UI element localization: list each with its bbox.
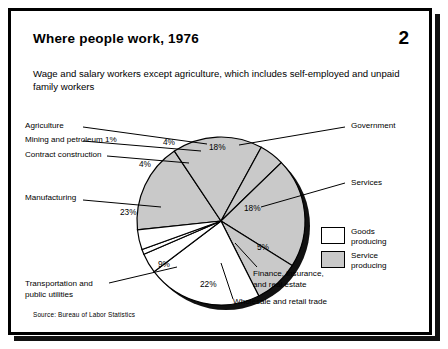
callout-manufacturing: Manufacturing: [25, 193, 76, 204]
legend-label-service-producing: Service producing: [351, 251, 387, 270]
callout-leader-line: [239, 127, 345, 145]
slice-value-finance: 5%: [257, 242, 269, 253]
slice-value-contract-construction: 4%: [139, 159, 151, 170]
callout-agriculture: Agriculture: [25, 121, 64, 132]
chart-card: Where people work, 1976 2 Wage and salar…: [8, 8, 432, 335]
legend-swatch-goods-producing: [321, 227, 345, 244]
callout-services: Services: [351, 178, 382, 189]
legend-item-service-producing: Service producing: [321, 251, 387, 270]
pie-chart: Agriculture Mining and petroleum 1% Cont…: [11, 11, 435, 338]
legend-item-goods-producing: Goods producing: [321, 227, 387, 246]
slice-value-transportation: 9%: [158, 259, 170, 270]
slice-value-government: 18%: [209, 142, 226, 153]
legend-label-goods-producing: Goods producing: [351, 227, 387, 246]
chart-legend: Goods producing Service producing: [321, 227, 387, 275]
source-note: Source: Bureau of Labor Statistics: [33, 311, 135, 318]
slice-value-manufacturing: 23%: [120, 207, 137, 218]
callout-transportation: Transportation and public utilities: [25, 279, 93, 300]
callout-wholesale: Wholesale and retail trade: [233, 297, 327, 308]
slice-value-wholesale: 22%: [200, 279, 217, 290]
slice-value-services: 18%: [244, 203, 261, 214]
callout-government: Government: [351, 121, 396, 132]
callout-contract-construction: Contract construction: [25, 150, 101, 161]
slice-value-agriculture: 4%: [163, 137, 175, 148]
callout-finance: Finance, insurance, and real estate: [253, 269, 324, 290]
card-shadow-right: [435, 14, 440, 341]
callout-mining: Mining and petroleum 1%: [25, 135, 117, 146]
legend-swatch-service-producing: [321, 251, 345, 268]
